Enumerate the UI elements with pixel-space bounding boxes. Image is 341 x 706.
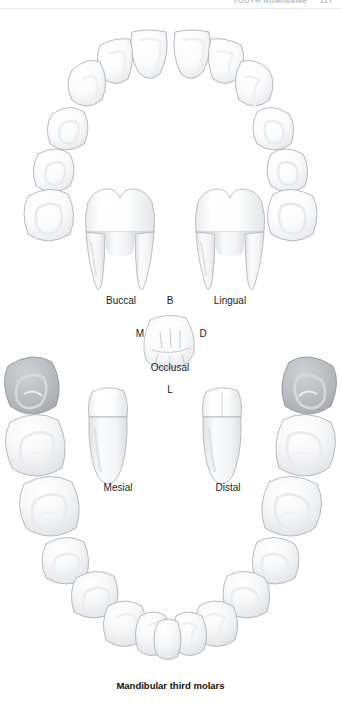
tooth-view-buccal [85,189,154,290]
arch-tooth-second-premolar-right [267,149,308,192]
tooth-view-distal [202,388,241,484]
running-head-rule [0,8,341,9]
running-head: TOOTH NUM/NAME 117 [0,0,341,9]
arch-tooth-central-incisor-left [131,30,167,79]
running-head-title: TOOTH NUM/NAME [233,0,308,5]
label-mesial: Mesial [104,483,133,493]
arch-tooth-first-molar-left [24,189,74,241]
label-distal: Distal [215,483,240,493]
arch-tooth-canine-right [235,60,273,106]
arch-tooth-first-premolar-left [47,107,88,150]
arch-tooth-first-molar-right [267,189,317,241]
figure-page: TOOTH NUM/NAME 117 [0,0,341,706]
figure-caption: Mandibular third molars [0,680,341,691]
label-lingual: Lingual [214,296,246,306]
label-buccal-initial: B [167,296,174,306]
label-occlusal: Occlusal [151,363,189,373]
running-head-page-number: 117 [320,0,333,5]
arch-tooth-third-molar-left-highlighted [4,357,59,414]
dental-arch-diagram [0,10,341,670]
label-lingual-initial: L [167,385,173,395]
arch-tooth-central-incisor-left-lower [154,619,181,660]
label-distal-initial: D [199,329,206,339]
arch-tooth-canine-left [68,60,106,106]
tooth-view-mesial [88,388,127,484]
arch-tooth-second-molar-left [5,414,65,476]
label-mesial-initial: M [136,329,144,339]
arch-tooth-third-molar-right-highlighted [282,357,337,414]
arch-tooth-central-incisor-right [174,30,210,79]
arch-tooth-molar-left-lower [19,476,79,536]
tooth-view-occlusal [144,315,195,368]
arch-tooth-second-premolar-left [33,149,74,192]
arch-tooth-molar-right-lower [262,476,322,536]
label-buccal: Buccal [106,296,136,306]
arch-tooth-second-molar-right [276,414,336,476]
tooth-view-lingual [195,189,264,290]
arch-tooth-first-premolar-right [253,107,294,150]
